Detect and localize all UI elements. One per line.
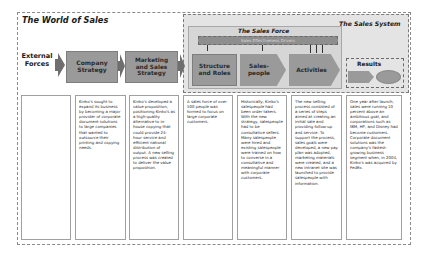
column-activities: The new selling process consisted of a s… — [291, 95, 342, 240]
activities-box: Activities — [289, 54, 340, 86]
driver-connector-structure — [207, 45, 208, 51]
external-forces-label: External Forces — [19, 53, 55, 69]
diagram-title: The World of Sales — [22, 15, 108, 25]
flow-arrow-icon — [180, 54, 185, 78]
marketing-sales-strategy-label: Marketing and Sales Strategy — [131, 57, 173, 77]
results-ellipse-shape — [376, 70, 401, 84]
salespeople-box: Sales-people — [240, 54, 286, 86]
column-external-forces — [21, 95, 71, 240]
driver-connector-salespeople — [262, 45, 263, 51]
driver-connector-activities-2 — [316, 45, 317, 53]
column-company-strategy: Kinko's sought to expand its business by… — [75, 95, 126, 240]
company-strategy-box: Company Strategy — [66, 51, 118, 83]
results-pentagon-shape — [348, 71, 374, 83]
sales-force-title: The Sales Force — [238, 28, 289, 34]
structure-roles-box: Structure and Roles — [192, 54, 237, 86]
sales-effectiveness-drivers-bar: Sales Effectiveness Drivers — [198, 36, 338, 45]
marketing-sales-strategy-box: Marketing and Sales Strategy — [125, 51, 178, 83]
flow-arrow-icon — [58, 53, 65, 77]
driver-connector-activities-1 — [310, 45, 311, 53]
sales-system-title: The Sales System — [339, 20, 401, 27]
salespeople-label: Sales-people — [244, 63, 274, 76]
results-title: Results — [357, 61, 381, 67]
company-strategy-label: Company Strategy — [72, 60, 112, 74]
column-marketing-sales-strategy: Kinko's developed a value proposition, p… — [129, 95, 179, 240]
column-results: One year after launch, sales were runnin… — [346, 95, 402, 240]
column-structure-roles: A sales force of over 500 people was for… — [183, 95, 233, 240]
activities-label: Activities — [296, 67, 327, 74]
driver-connector-activities-3 — [322, 45, 323, 53]
structure-roles-label: Structure and Roles — [196, 63, 234, 76]
column-salespeople: Historically, Kinko's salespeople had be… — [237, 95, 287, 240]
